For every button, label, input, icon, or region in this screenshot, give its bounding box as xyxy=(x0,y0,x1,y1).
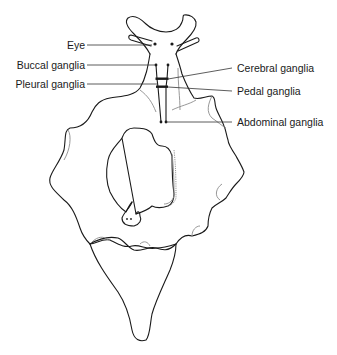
eye-right-dot xyxy=(170,42,173,45)
buccal-left-dot xyxy=(155,64,158,67)
eye-left-dot xyxy=(153,42,156,45)
label-cerebral-ganglia: Cerebral ganglia xyxy=(237,62,314,74)
rhinophore-right xyxy=(177,38,199,51)
buccal-right-dot xyxy=(167,64,170,67)
label-buccal-ganglia: Buccal ganglia xyxy=(17,59,85,71)
label-pedal-ganglia: Pedal ganglia xyxy=(237,85,301,97)
label-pleural-ganglia: Pleural ganglia xyxy=(16,78,85,90)
cerebral-ganglia-bar xyxy=(156,78,169,80)
leader-pedal xyxy=(168,87,232,91)
pedal-ganglia-bar xyxy=(156,86,168,88)
aplysia-drawing xyxy=(0,0,337,355)
shell-outline xyxy=(107,128,174,214)
label-abdominal-ganglia: Abdominal ganglia xyxy=(237,116,323,128)
siphon-outline xyxy=(122,202,141,226)
label-eye: Eye xyxy=(67,39,85,51)
foot-outline xyxy=(90,244,176,341)
connective-left xyxy=(156,65,161,122)
connective-right xyxy=(166,65,168,122)
foot-boundary xyxy=(90,237,176,250)
abdominal-left-dot xyxy=(160,121,163,124)
